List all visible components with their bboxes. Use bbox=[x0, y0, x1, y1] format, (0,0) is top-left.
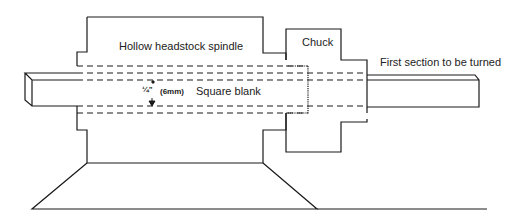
dimension-imperial-label: ¼" bbox=[142, 85, 152, 94]
spindle-label: Hollow headstock spindle bbox=[119, 40, 243, 52]
dimension-arrow-bottom bbox=[149, 101, 155, 106]
chuck-label: Chuck bbox=[302, 36, 333, 48]
lathe-base bbox=[32, 163, 317, 209]
first-section-bar bbox=[367, 75, 479, 107]
dimension-metric-label: (6mm) bbox=[160, 87, 184, 96]
square-blank-end bbox=[25, 73, 77, 106]
lathe-diagram bbox=[0, 0, 510, 222]
first-section-label: First section to be turned bbox=[380, 56, 501, 68]
square-blank-label: Square blank bbox=[196, 85, 261, 97]
dimension-arrow-top bbox=[152, 81, 154, 83]
